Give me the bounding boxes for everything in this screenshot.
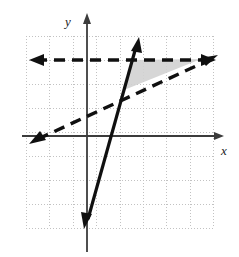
graph-figure: y x: [0, 0, 239, 257]
x-axis-label: x: [220, 143, 227, 158]
y-axis-label: y: [63, 14, 71, 29]
coordinate-plane-svg: y x: [0, 0, 239, 257]
figure-background: [0, 0, 239, 257]
